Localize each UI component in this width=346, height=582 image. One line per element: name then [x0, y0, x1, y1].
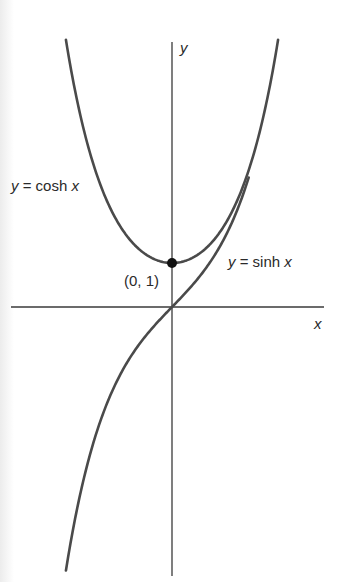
sinh-label-arg: x — [284, 253, 292, 270]
x-axis-label: x — [314, 316, 322, 331]
sinh-label-eq: = sinh — [236, 253, 285, 270]
cosh-label: y = cosh x — [11, 178, 79, 193]
cosh-label-arg: x — [71, 177, 79, 194]
point-label: (0, 1) — [124, 273, 159, 288]
point-marker — [167, 258, 177, 268]
y-axis-label: y — [180, 40, 188, 55]
sinh-curve — [66, 178, 249, 571]
plot-area — [0, 0, 346, 582]
sinh-label-var: y — [228, 253, 236, 270]
cosh-label-var: y — [11, 177, 19, 194]
sinh-label: y = sinh x — [228, 254, 292, 269]
cosh-label-eq: = cosh — [19, 177, 72, 194]
